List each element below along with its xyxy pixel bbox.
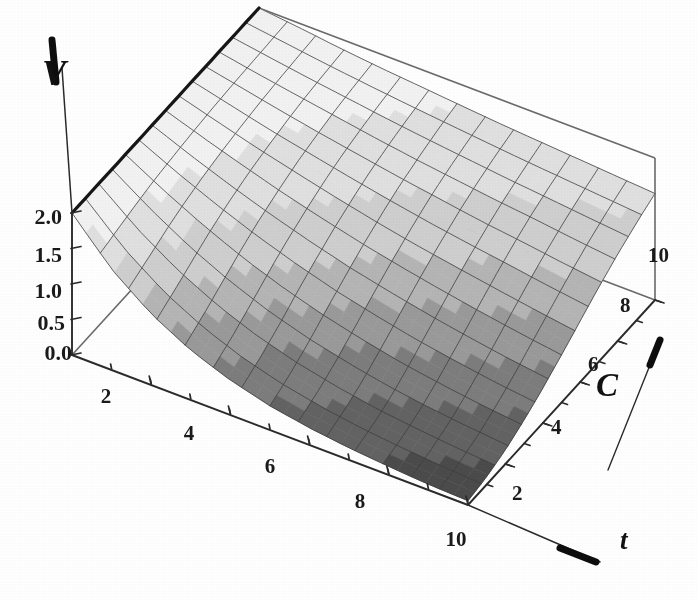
c-tick-label-10: 10 <box>648 243 669 267</box>
c-tick-label-4: 4 <box>551 415 562 439</box>
surface-plot-figure: 2.0 1.5 1.0 0.5 0.0 2 4 6 8 10 2 4 6 8 1… <box>0 0 697 600</box>
v-tick-label-0-5: 0.5 <box>38 310 66 335</box>
t-tick-label-10: 10 <box>446 527 467 551</box>
v-tick-label-1-0: 1.0 <box>35 278 63 303</box>
v-tick-label-0-0: 0.0 <box>45 340 73 365</box>
v-axis-tick-labels: 2.0 1.5 1.0 0.5 0.0 <box>35 204 73 365</box>
t-tick-label-4: 4 <box>184 421 195 445</box>
t-tick-label-6: 6 <box>265 454 276 478</box>
v-tick-label-2-0: 2.0 <box>35 204 63 229</box>
v-tick-label-1-5: 1.5 <box>35 242 63 267</box>
c-tick-label-2: 2 <box>512 481 523 505</box>
t-tick-label-2: 2 <box>101 384 112 408</box>
t-tick-label-8: 8 <box>355 489 366 513</box>
plot-canvas: 2.0 1.5 1.0 0.5 0.0 2 4 6 8 10 2 4 6 8 1… <box>0 0 697 600</box>
c-tick-label-8: 8 <box>620 293 631 317</box>
c-axis-label: C <box>596 367 619 403</box>
t-axis-label: t <box>620 525 629 555</box>
v-axis-label: V <box>42 53 69 93</box>
